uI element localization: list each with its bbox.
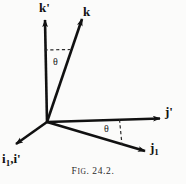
prime-mark-i: ' [17,151,21,166]
axis-label-k-text: k [83,4,90,19]
construction-line-top-dashed [45,50,71,51]
vector-k-prime [45,20,47,122]
vector-k [47,19,82,122]
axis-label-k: k [83,5,90,18]
vector-j-prime [47,119,160,123]
axis-label-k-prime: k' [39,1,50,14]
angle-label-theta-bottom: θ [104,124,109,134]
prime-mark-k: ' [46,0,50,15]
axis-label-j-one-subscript: 1 [154,147,159,157]
vector-j-one [47,122,145,151]
axis-label-j-prime: j' [165,105,173,118]
axis-label-j-one: j1 [150,141,159,157]
vector-i-axis [16,122,47,144]
prime-mark-j: ' [169,104,173,119]
angle-label-theta-top: θ [53,57,58,67]
figure-caption: FIG. 24.2. [0,166,186,176]
axis-label-i-comma: ,i [10,151,17,166]
figure-caption-number: . 24.2. [86,166,114,176]
construction-line-bottom-dashed [120,120,123,146]
figure-container: k' k j' j1 i1,i' θ θ FIG. 24.2. [0,0,186,184]
